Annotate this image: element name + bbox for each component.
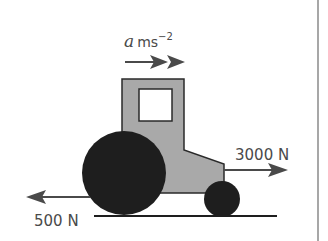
driving-force-label: 3000 N xyxy=(235,146,289,164)
tractor-force-diagram: ams−2 3000 N 500 N xyxy=(0,0,328,241)
acceleration-arrow-icon xyxy=(125,55,185,69)
acceleration-label: ams−2 xyxy=(124,31,173,51)
front-wheel xyxy=(204,181,240,217)
resistance-label: 500 N xyxy=(34,212,79,230)
resistance-arrow-icon xyxy=(26,190,90,204)
driving-force-arrow-icon xyxy=(224,163,288,177)
cab-window xyxy=(139,89,172,121)
rear-wheel xyxy=(82,131,166,215)
